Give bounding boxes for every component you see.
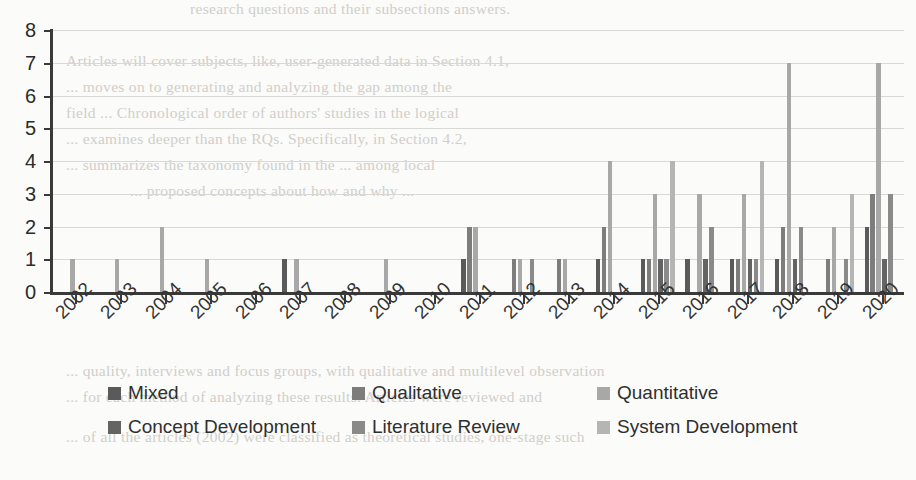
legend-swatch-icon: [597, 387, 610, 400]
bar: [596, 259, 600, 292]
y-axis-tick-label: 2: [25, 215, 36, 238]
legend-item[interactable]: Mixed: [108, 382, 179, 404]
bar: [888, 194, 892, 292]
bar: [461, 259, 465, 292]
y-axis-tick-label: 6: [25, 84, 36, 107]
legend-swatch-icon: [352, 421, 365, 434]
bar: [641, 259, 645, 292]
x-axis-labels: 2002200320042005200620072008200920102011…: [0, 300, 916, 362]
legend-item[interactable]: Literature Review: [352, 416, 520, 438]
bar: [697, 194, 701, 292]
y-axis-tick: [44, 63, 53, 65]
bar: [775, 259, 779, 292]
legend-label: System Development: [617, 416, 798, 438]
y-axis-labels: 012345678: [6, 30, 36, 292]
bar: [670, 161, 674, 292]
legend-label: Concept Development: [128, 416, 316, 438]
legend-swatch-icon: [352, 387, 365, 400]
legend-swatch-icon: [597, 421, 610, 434]
legend-swatch-icon: [108, 387, 121, 400]
y-axis-tick-label: 4: [25, 150, 36, 173]
bar: [557, 259, 561, 292]
bar: [730, 259, 734, 292]
legend-item[interactable]: Qualitative: [352, 382, 462, 404]
bar: [512, 259, 516, 292]
bar: [467, 227, 471, 293]
bar: [781, 227, 785, 293]
y-axis-tick-label: 3: [25, 182, 36, 205]
bar: [760, 161, 764, 292]
legend-label: Literature Review: [372, 416, 520, 438]
legend-row-bottom: Concept DevelopmentLiterature ReviewSyst…: [0, 416, 916, 446]
y-axis-tick: [44, 30, 53, 32]
plot-area: 012345678: [0, 0, 916, 300]
bar: [608, 161, 612, 292]
legend-item[interactable]: Quantitative: [597, 382, 718, 404]
bar: [685, 259, 689, 292]
y-axis-tick: [44, 259, 53, 261]
legend-item[interactable]: System Development: [597, 416, 798, 438]
bar-chart: 012345678 200220032004200520062007200820…: [0, 0, 916, 480]
y-axis-tick: [44, 128, 53, 130]
bar: [742, 194, 746, 292]
bar: [787, 63, 791, 292]
bar: [647, 259, 651, 292]
y-axis-tick-label: 8: [25, 19, 36, 42]
bar: [832, 227, 836, 293]
bar: [826, 259, 830, 292]
chart-legend: MixedQualitativeQuantitative Concept Dev…: [0, 382, 916, 452]
y-axis-tick: [44, 227, 53, 229]
legend-item[interactable]: Concept Development: [108, 416, 316, 438]
bar: [736, 259, 740, 292]
bar: [850, 194, 854, 292]
y-axis-tick-label: 5: [25, 117, 36, 140]
bar: [876, 63, 880, 292]
bar: [602, 227, 606, 293]
bar: [473, 227, 477, 293]
bars-container: [53, 30, 904, 292]
bar: [870, 194, 874, 292]
legend-label: Quantitative: [617, 382, 718, 404]
bar: [653, 194, 657, 292]
legend-swatch-icon: [108, 421, 121, 434]
legend-label: Qualitative: [372, 382, 462, 404]
y-axis-tick: [44, 194, 53, 196]
bar: [282, 259, 286, 292]
legend-label: Mixed: [128, 382, 179, 404]
bar: [865, 227, 869, 293]
y-axis-tick: [44, 96, 53, 98]
legend-row-top: MixedQualitativeQuantitative: [0, 382, 916, 412]
y-axis-tick-label: 7: [25, 51, 36, 74]
bar: [160, 227, 164, 293]
y-axis-tick: [44, 161, 53, 163]
y-axis-tick-label: 1: [25, 248, 36, 271]
